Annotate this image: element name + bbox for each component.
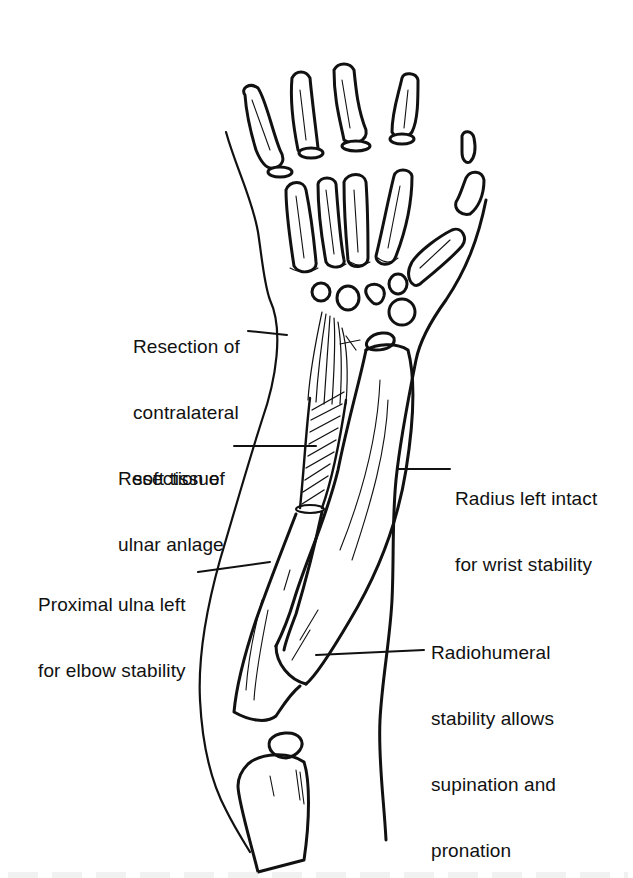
ulnar-anlage-hatch	[296, 392, 346, 513]
metacarpals	[286, 170, 464, 285]
proximal-ulna-bone	[234, 512, 322, 720]
cropped-caption-fragment	[8, 872, 628, 878]
label-line: pronation	[431, 840, 556, 862]
label-line: Resection of	[133, 336, 240, 358]
label-line: Radius left intact	[455, 488, 597, 510]
anatomical-illustration: Resection of contralateral soft tissue R…	[0, 0, 633, 878]
label-proximal-ulna: Proximal ulna left for elbow stability	[38, 550, 186, 726]
leader-contralateral	[248, 331, 287, 335]
carpal-bones	[312, 274, 415, 350]
ulnar-anlage-tissue	[308, 312, 360, 404]
label-line: for wrist stability	[455, 554, 597, 576]
label-line: supination and	[431, 774, 556, 796]
label-line: stability allows	[431, 708, 556, 730]
label-line: Radiohumeral	[431, 642, 556, 664]
label-line: contralateral	[133, 402, 240, 424]
label-radiohumeral-stability: Radiohumeral stability allows supination…	[431, 598, 556, 878]
label-radius-intact: Radius left intact for wrist stability	[455, 444, 597, 620]
humerus-detail	[270, 770, 304, 804]
label-line: for elbow stability	[38, 660, 186, 682]
label-line: Proximal ulna left	[38, 594, 186, 616]
label-line: Resection of	[118, 468, 225, 490]
